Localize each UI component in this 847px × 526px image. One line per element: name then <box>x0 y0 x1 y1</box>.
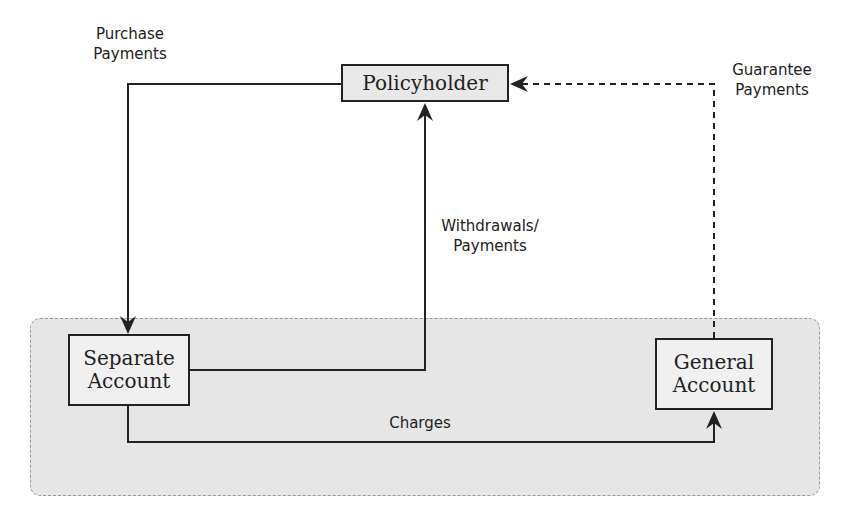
general-account-node: General Account <box>655 338 773 410</box>
purchase-label-2: Payments <box>80 44 180 64</box>
charges-label: Charges <box>370 413 470 433</box>
general-account-label-2: Account <box>673 374 756 397</box>
guarantee-payments-label: Guarantee Payments <box>722 60 822 101</box>
purchase-payments-label: Purchase Payments <box>80 24 180 65</box>
general-account-label-1: General <box>673 351 756 374</box>
diagram-canvas: Policyholder Separate Account General Ac… <box>0 0 847 526</box>
withdrawals-payments-label: Withdrawals/ Payments <box>425 216 555 257</box>
separate-account-node: Separate Account <box>68 334 190 406</box>
purchase-label-1: Purchase <box>80 24 180 44</box>
separate-account-label-1: Separate <box>83 347 175 370</box>
guarantee-label-2: Payments <box>722 80 822 100</box>
separate-account-label-2: Account <box>83 370 175 393</box>
guarantee-label-1: Guarantee <box>722 60 822 80</box>
withdrawals-label-1: Withdrawals/ <box>425 216 555 236</box>
withdrawals-label-2: Payments <box>425 236 555 256</box>
policyholder-node: Policyholder <box>341 64 509 102</box>
policyholder-label: Policyholder <box>362 72 488 95</box>
